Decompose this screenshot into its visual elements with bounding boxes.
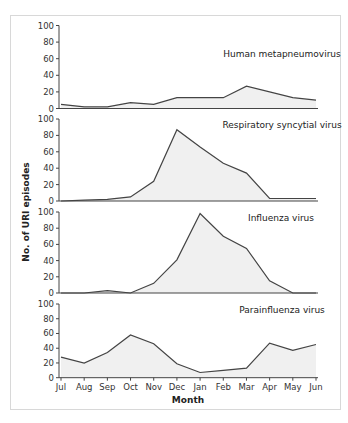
y-tick-label: 100 (38, 114, 54, 124)
y-tick-label: 0 (49, 104, 54, 114)
y-tick-label: 0 (49, 288, 54, 298)
x-tick-label: Apr (262, 382, 277, 392)
panel-parainfluenza-virus: 020406080100Parainfluenza virus (38, 299, 325, 383)
y-tick-label: 20 (43, 180, 54, 190)
x-tick-label: Feb (216, 382, 231, 392)
y-tick-label: 60 (43, 54, 54, 64)
x-tick-label: Jul (55, 382, 66, 392)
y-tick-label: 80 (43, 314, 54, 324)
y-axis-title: No. of URI episodes (21, 162, 31, 261)
y-tick-label: 80 (43, 37, 54, 47)
x-tick-label: Mar (238, 382, 255, 392)
y-tick-label: 40 (43, 343, 54, 353)
x-tick-label: Dec (169, 382, 186, 392)
y-tick-label: 100 (38, 207, 54, 217)
panel-title: Parainfluenza virus (239, 305, 325, 315)
x-tick-label: Jun (308, 382, 322, 392)
y-tick-label: 60 (43, 147, 54, 157)
chart-panels: 020406080100Human metapneumovirus0204060… (38, 21, 342, 392)
y-tick-label: 80 (43, 223, 54, 233)
y-tick-label: 100 (38, 21, 54, 31)
panel-title: Human metapneumovirus (223, 49, 341, 59)
y-tick-label: 20 (43, 358, 54, 368)
y-tick-label: 0 (49, 373, 54, 383)
x-tick-label: May (284, 382, 302, 392)
x-axis-title: Month (172, 395, 204, 405)
y-tick-label: 40 (43, 163, 54, 173)
panel-human-metapneumovirus: 020406080100Human metapneumovirus (38, 21, 341, 114)
stacked-area-chart: No. of URI episodes Month 020406080100Hu… (0, 0, 348, 423)
series-area (61, 130, 316, 201)
series-area (61, 214, 316, 293)
x-tick-label: Sep (99, 382, 115, 392)
y-tick-label: 60 (43, 239, 54, 249)
y-tick-label: 20 (43, 272, 54, 282)
y-tick-label: 60 (43, 328, 54, 338)
y-tick-label: 80 (43, 130, 54, 140)
panel-respiratory-syncytial-virus: 020406080100Respiratory syncytial virus (38, 114, 342, 206)
x-tick-label: Aug (76, 382, 93, 392)
y-tick-label: 40 (43, 70, 54, 80)
x-tick-label: Jan (193, 382, 207, 392)
y-tick-label: 100 (38, 299, 54, 309)
y-tick-label: 20 (43, 87, 54, 97)
y-tick-label: 40 (43, 256, 54, 266)
x-tick-label: Nov (145, 382, 162, 392)
y-tick-label: 0 (49, 196, 54, 206)
x-tick-label: Oct (123, 382, 138, 392)
panel-title: Respiratory syncytial virus (222, 120, 342, 130)
panel-title: Influenza virus (248, 213, 314, 223)
panel-influenza-virus: 020406080100Influenza virus (38, 207, 318, 298)
